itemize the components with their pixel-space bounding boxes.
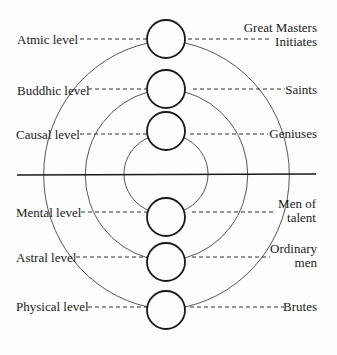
label-men-of: Men of [278,196,317,211]
label-causal-level: Causal level [16,127,80,142]
horizon-divider [17,174,316,175]
label-initiates: Initiates [275,34,317,49]
circle-atmic [147,20,185,58]
levels-diagram: Atmic level Buddhic level Causal level M… [0,0,337,355]
label-talent: talent [287,210,316,225]
label-mental-level: Mental level [16,205,82,220]
label-brutes: Brutes [283,299,317,314]
diagram-canvas: Atmic level Buddhic level Causal level M… [0,0,337,355]
label-geniuses: Geniuses [269,126,317,141]
label-great-masters: Great Masters [244,20,317,35]
circle-physical [147,291,185,329]
left-labels: Atmic level Buddhic level Causal level M… [16,32,90,314]
label-atmic-level: Atmic level [17,32,78,47]
label-physical-level: Physical level [16,299,89,314]
label-saints: Saints [285,82,317,97]
label-ordinary: Ordinary [270,241,317,256]
circle-causal [147,112,185,150]
label-buddhic-level: Buddhic level [17,83,90,98]
circle-buddhic [147,70,185,108]
label-men: men [295,255,318,270]
right-labels: Great Masters Initiates Saints Geniuses … [244,20,318,314]
label-astral-level: Astral level [16,250,77,265]
circle-astral [147,243,185,281]
circle-mental [147,198,185,236]
